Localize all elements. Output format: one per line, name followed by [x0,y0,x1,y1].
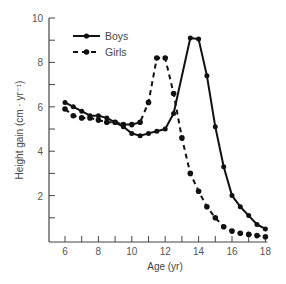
boys-data-point [246,213,251,218]
girls-data-point [137,120,143,126]
x-tick-label: 8 [96,246,102,257]
girls-data-point [263,234,269,240]
y-tick-label: 10 [32,13,44,24]
girls-data-point [171,91,177,97]
girls-data-point [104,120,110,126]
series-girls [62,55,268,239]
girls-data-point [146,100,152,106]
girls-data-point [204,204,210,210]
boys-data-point [129,131,134,136]
boys-data-point [71,104,76,109]
boys-data-point [138,133,143,138]
boys-data-point [221,164,226,169]
boys-data-point [171,111,176,116]
girls-data-point [112,120,118,126]
girls-data-point [229,228,235,234]
x-tick-label: 18 [260,246,272,257]
girls-data-point [162,55,168,61]
boys-data-point [230,193,235,198]
series-layer [62,36,268,240]
x-axis-title: Age (yr) [147,261,183,272]
boys-data-point [196,37,201,42]
x-tick-label: 10 [126,246,138,257]
boys-data-point [146,131,151,136]
girls-data-point [238,231,244,237]
legend: Boys Girls [73,30,128,58]
girls-data-point [154,55,160,61]
x-tick-label: 16 [226,246,238,257]
girls-data-point [79,115,85,121]
girls-data-point [62,106,68,112]
boys-data-point [154,129,159,134]
axes: 246810681012141618 [32,13,272,257]
boys-data-point [163,127,168,132]
girls-data-point [254,233,260,239]
series-boys [63,36,268,232]
x-tick-label: 6 [62,246,68,257]
y-axis-title: Height gain (cm · yr⁻¹) [14,81,25,180]
girls-data-point [221,224,227,230]
girls-data-point [87,115,93,121]
girls-data-point [129,122,135,128]
girls-data-point [71,113,77,119]
girls-data-point [246,232,252,238]
boys-data-point [79,109,84,114]
boys-data-point [263,226,268,231]
legend-boys-marker [84,33,89,38]
girls-data-point [213,215,219,221]
legend-girls-label: Girls [105,46,127,58]
y-tick-label: 6 [37,102,43,113]
girls-data-point [179,135,185,141]
boys-line [65,38,265,229]
boys-data-point [204,73,209,78]
legend-girls-marker [84,49,90,55]
height-gain-chart: 246810681012141618 Boys Girls Age (yr) H… [0,0,286,284]
girls-data-point [96,117,102,123]
y-tick-label: 4 [37,146,43,157]
x-tick-label: 14 [193,246,205,257]
boys-data-point [188,36,193,41]
boys-data-point [255,222,260,227]
girls-data-point [188,171,194,177]
girls-line [65,58,265,237]
girls-data-point [196,188,202,194]
girls-data-point [121,122,127,128]
boys-data-point [238,204,243,209]
boys-data-point [213,124,218,129]
boys-data-point [63,100,68,105]
legend-boys-label: Boys [105,30,128,42]
y-tick-label: 8 [37,57,43,68]
y-tick-label: 2 [37,191,43,202]
x-tick-label: 12 [160,246,172,257]
